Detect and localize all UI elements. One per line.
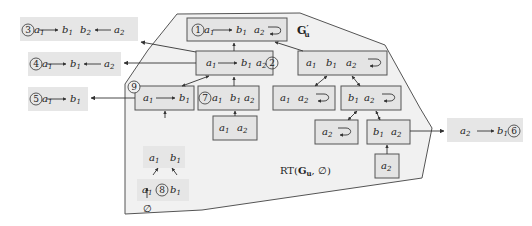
rt-diagram: 1 2 3 4 5 6 7 8 9 a1 b1 b2 a2 a1 b1 a2 a… xyxy=(0,0,532,226)
marker-5: 5 xyxy=(33,94,39,104)
marker-7: 7 xyxy=(202,93,208,103)
graph-label: G′u xyxy=(297,22,310,39)
empty-set: ∅ xyxy=(143,203,152,214)
marker-9: 9 xyxy=(131,82,137,92)
marker-8: 8 xyxy=(159,185,165,195)
marker-2: 2 xyxy=(269,58,275,68)
marker-6: 6 xyxy=(511,126,517,136)
marker-3: 3 xyxy=(25,25,31,35)
marker-4: 4 xyxy=(33,59,39,69)
marker-1: 1 xyxy=(195,25,201,35)
